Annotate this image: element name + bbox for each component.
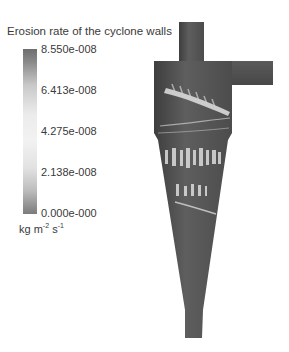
- cyclone-body: [154, 61, 232, 338]
- cyclone-geometry: [0, 0, 289, 352]
- tangential-inlet: [230, 61, 273, 85]
- vortex-finder: [179, 22, 204, 62]
